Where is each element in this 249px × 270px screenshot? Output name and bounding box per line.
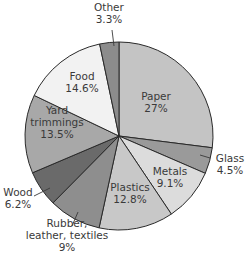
- label-metals: Metals9.1%: [153, 165, 187, 189]
- label-other: Other3.3%: [94, 1, 124, 25]
- pie-chart: Paper27%Glass4.5%Metals9.1%Plastics12.8%…: [0, 0, 249, 270]
- label-glass: Glass4.5%: [216, 152, 244, 176]
- label-paper: Paper27%: [141, 90, 171, 114]
- label-plastics: Plastics12.8%: [110, 181, 149, 205]
- label-food: Food14.6%: [65, 70, 98, 94]
- label-wood: Wood6.2%: [3, 186, 32, 210]
